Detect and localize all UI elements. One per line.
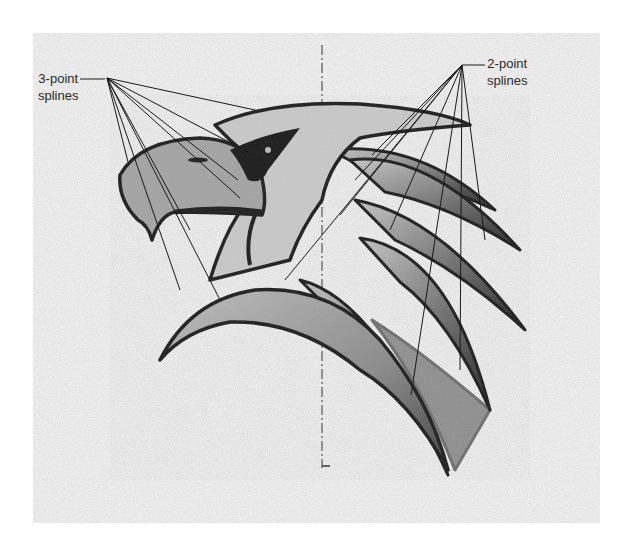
label-2-point-line1: 2-point bbox=[487, 55, 527, 72]
label-2-point-splines: 2-point splines bbox=[487, 55, 527, 89]
eagle-illustration bbox=[0, 0, 636, 557]
label-3-point-line1: 3-point bbox=[38, 70, 78, 87]
label-3-point-splines: 3-point splines bbox=[38, 70, 78, 104]
texture-overlay bbox=[110, 95, 530, 480]
label-3-point-line2: splines bbox=[38, 87, 78, 104]
label-2-point-line2: splines bbox=[487, 72, 527, 89]
